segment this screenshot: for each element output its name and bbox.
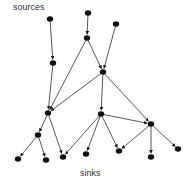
internal-node-b [50, 60, 56, 65]
edge-f-t5 [122, 124, 151, 149]
edge-e-f [101, 114, 147, 123]
sources-label: sources [13, 3, 45, 12]
sink-node-t5 [116, 148, 122, 153]
edge-g-t1 [20, 135, 38, 156]
internal-node-d [45, 110, 51, 115]
source-node-s1 [47, 16, 53, 21]
edge-d-t3 [48, 113, 62, 153]
edges-layer [20, 13, 175, 156]
edge-a-d [50, 38, 87, 110]
edge-e-t3 [65, 114, 101, 154]
source-node-s2 [85, 10, 91, 15]
edge-g-t2 [38, 135, 45, 156]
sink-node-t4 [83, 151, 89, 156]
edge-b-d [48, 63, 53, 109]
sink-node-t2 [43, 157, 49, 162]
sink-node-t3 [60, 154, 66, 159]
edge-c-e [101, 72, 103, 110]
edge-c-f [103, 72, 148, 121]
edge-s3-c [104, 24, 116, 68]
sink-node-t1 [15, 156, 21, 161]
edge-s2-a [87, 13, 88, 34]
source-node-s3 [113, 21, 119, 26]
edge-a-c [87, 38, 101, 69]
internal-node-a [84, 35, 90, 40]
sinks-label: sinks [80, 169, 101, 178]
edge-e-t5 [101, 114, 117, 148]
edge-f-t7 [151, 124, 175, 146]
internal-node-c [100, 69, 106, 74]
dag-diagram [0, 0, 191, 180]
sink-node-t6 [148, 154, 154, 159]
edge-d-g [40, 113, 48, 132]
internal-node-f [148, 121, 154, 126]
edge-s1-b [50, 19, 53, 59]
internal-node-g [35, 132, 41, 137]
internal-node-e [98, 111, 104, 116]
edge-e-t4 [87, 114, 101, 151]
sink-node-t7 [175, 146, 181, 151]
